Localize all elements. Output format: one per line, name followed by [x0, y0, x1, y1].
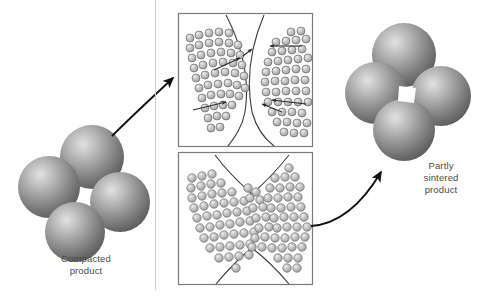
inset-initial-contact: [179, 14, 313, 147]
sintered-particle-cluster: [345, 23, 471, 161]
sintered-particle: [373, 99, 435, 161]
arrow-inset-to-sintered: [311, 172, 381, 226]
arrow-compacted-to-inset: [112, 78, 173, 136]
compacted-particle-cluster: [18, 125, 150, 262]
inset-neck-growth: [179, 153, 313, 285]
central-pore: [398, 86, 416, 103]
sintering-figure: Compacted product Partly sintered produc…: [0, 0, 489, 301]
compacted-product-label: Compacted product: [28, 253, 144, 277]
partly-sintered-product-label: Partly sintered product: [396, 160, 486, 196]
